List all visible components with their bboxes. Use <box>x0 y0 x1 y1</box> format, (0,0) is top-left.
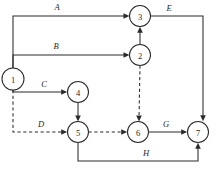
node-1-label: 1 <box>11 75 15 85</box>
edge-node2-node6 <box>136 66 142 122</box>
node-1[interactable]: 1 <box>2 68 24 90</box>
node-2-label: 2 <box>138 51 142 61</box>
edge-b: B <box>13 41 130 68</box>
node-7-label: 7 <box>196 128 200 138</box>
edge-a: A <box>13 2 130 68</box>
edge-c-arrowhead <box>61 89 67 95</box>
network-diagram-canvas: A B C D E <box>0 0 217 174</box>
node-4[interactable]: 4 <box>68 82 89 103</box>
edge-node2-node6-line <box>139 66 140 119</box>
edge-h: H <box>78 143 201 162</box>
edge-label-g: G <box>163 119 169 129</box>
edge-node2-node6-arrowhead <box>136 115 142 121</box>
edge-node2-node3 <box>137 27 143 45</box>
edge-e-line <box>151 16 204 118</box>
edge-a-line <box>13 16 126 68</box>
edge-label-a: A <box>53 2 60 12</box>
edge-c-line <box>13 90 64 92</box>
node-5[interactable]: 5 <box>68 122 89 143</box>
node-5-label: 5 <box>76 128 80 138</box>
edge-label-c: C <box>41 79 47 89</box>
edge-d: D <box>13 90 67 135</box>
edge-e: E <box>151 3 206 121</box>
edge-b-line <box>13 55 126 68</box>
edge-label-h: H <box>142 148 150 158</box>
edge-node5-node6-arrowhead <box>121 129 127 135</box>
edge-node4-node5 <box>75 103 81 122</box>
edge-node5-node6 <box>89 129 128 135</box>
edge-g: G <box>149 119 188 135</box>
edge-b-arrowhead <box>124 52 130 58</box>
edge-h-arrowhead <box>195 143 201 149</box>
edge-d-arrowhead <box>61 129 67 135</box>
edge-node2-node3-arrowhead <box>137 27 143 33</box>
edge-e-arrowhead <box>200 115 206 121</box>
node-6[interactable]: 6 <box>128 122 149 143</box>
edge-label-b: B <box>53 41 58 51</box>
network-diagram: A B C D E <box>0 0 217 174</box>
edge-label-e: E <box>165 3 172 13</box>
edge-h-line <box>78 143 198 162</box>
node-3[interactable]: 3 <box>130 6 151 27</box>
node-6-label: 6 <box>136 128 140 138</box>
node-7[interactable]: 7 <box>188 122 209 143</box>
node-2[interactable]: 2 <box>130 45 151 66</box>
edge-g-arrowhead <box>181 129 187 135</box>
edge-a-arrowhead <box>124 13 130 19</box>
edge-node4-node5-arrowhead <box>75 115 81 121</box>
node-3-label: 3 <box>138 12 142 22</box>
edge-label-d: D <box>37 119 45 129</box>
